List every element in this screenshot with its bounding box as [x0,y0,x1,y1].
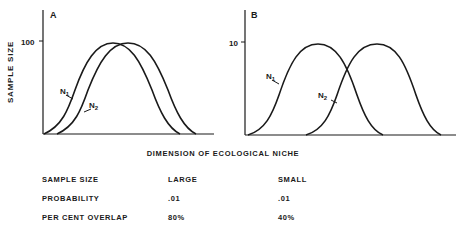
row-probability-label: PROBABILITY [42,194,99,203]
panel-b-y-tick: 10 [229,39,238,48]
panel-b-curve-n2 [306,44,441,135]
panel-a-n2-label: N2 [89,101,99,111]
panel-a-n1-label: N1 [60,87,70,97]
panel-b-n1-label: N1 [266,72,276,82]
row-probability-a: .01 [168,194,180,203]
panel-b-label: B [251,10,258,20]
panel-b [241,10,456,135]
y-axis-label: SAMPLE SIZE [6,41,15,103]
row-overlap-a: 80% [168,213,185,222]
panel-a-y-tick: 100 [21,38,35,47]
panel-a-label: A [50,10,57,20]
row-overlap-label: PER CENT OVERLAP [42,213,128,222]
row-sample-size-label: SAMPLE SIZE [42,175,99,184]
panel-b-curve-n1 [248,44,383,135]
row-sample-size-b: SMALL [278,175,307,184]
row-sample-size-a: LARGE [168,175,197,184]
row-overlap-b: 40% [278,213,295,222]
panel-a-curve-n2 [57,43,196,134]
panel-b-n2-label: N2 [318,91,328,101]
x-axis-label: DIMENSION OF ECOLOGICAL NICHE [147,149,300,158]
row-probability-b: .01 [278,194,290,203]
panel-a [39,10,214,134]
